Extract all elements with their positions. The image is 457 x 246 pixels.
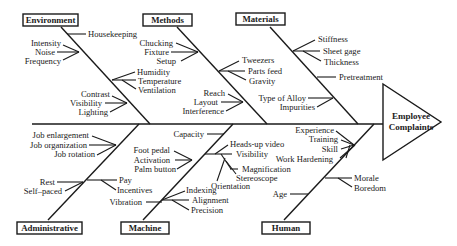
- cause-interference: Interference: [182, 106, 224, 116]
- cause-self-paced: Self–paced: [24, 186, 63, 196]
- effect-label-line2: Complaints: [389, 122, 434, 132]
- cause-ventilation: Ventilation: [138, 85, 176, 95]
- category-machine: Machine Capacity Foot pedal Activation P…: [110, 124, 292, 234]
- cause-stiffness: Stiffness: [318, 34, 349, 44]
- cause-boredom: Boredom: [354, 183, 386, 193]
- cause-palm-button: Palm button: [134, 164, 176, 174]
- cause-indexing: Indexing: [186, 185, 217, 195]
- cause-job-enlargement: Job enlargement: [33, 130, 90, 140]
- cause-setup: Setup: [156, 56, 176, 66]
- cause-training: Training: [309, 134, 339, 144]
- category-administrative: Administrative Job enlargement Job organ…: [17, 124, 153, 234]
- human-label: Human: [272, 223, 300, 233]
- cause-age: Age: [273, 189, 288, 199]
- cause-sheet-gage: Sheet gage: [323, 46, 361, 56]
- cause-precision: Precision: [191, 205, 224, 215]
- machine-label: Machine: [129, 223, 162, 233]
- cause-incentives: Incentives: [117, 185, 153, 195]
- cause-heads-up-video: Heads-up video: [230, 139, 284, 149]
- cause-work-hardening: Work Hardening: [276, 154, 334, 164]
- cause-gravity: Gravity: [249, 76, 276, 86]
- cause-tweezers: Tweezers: [242, 55, 275, 65]
- cause-capacity: Capacity: [173, 129, 204, 139]
- cause-vibration: Vibration: [110, 197, 143, 207]
- methods-label: Methods: [151, 15, 184, 25]
- cause-orientation: Orientation: [211, 181, 251, 191]
- cause-impurities: Impurities: [280, 102, 316, 112]
- fishbone-diagram: Employee Complaints Environment Housekee…: [0, 0, 457, 246]
- cause-alignment: Alignment: [192, 195, 229, 205]
- cause-pretreatment: Pretreatment: [339, 72, 384, 82]
- cause-housekeeping: Housekeeping: [88, 29, 138, 39]
- cause-parts-feed: Parts feed: [248, 66, 283, 76]
- cause-lighting: Lighting: [78, 107, 108, 117]
- effect-label-line1: Employee: [392, 111, 430, 121]
- administrative-label: Administrative: [21, 223, 78, 233]
- cause-morale: Morale: [354, 173, 379, 183]
- category-environment: Environment Housekeeping Intensity Noise…: [23, 14, 181, 124]
- cause-skill: Skill: [322, 144, 339, 154]
- cause-frequency: Frequency: [25, 56, 62, 66]
- cause-foot-pedal: Foot pedal: [133, 145, 170, 155]
- environment-label: Environment: [26, 15, 76, 25]
- cause-job-rotation: Job rotation: [54, 149, 96, 159]
- cause-thickness: Thickness: [324, 57, 360, 67]
- cause-pay: Pay: [119, 175, 133, 185]
- materials-label: Materials: [242, 14, 279, 24]
- cause-visibility-machine: Visibility: [236, 149, 269, 159]
